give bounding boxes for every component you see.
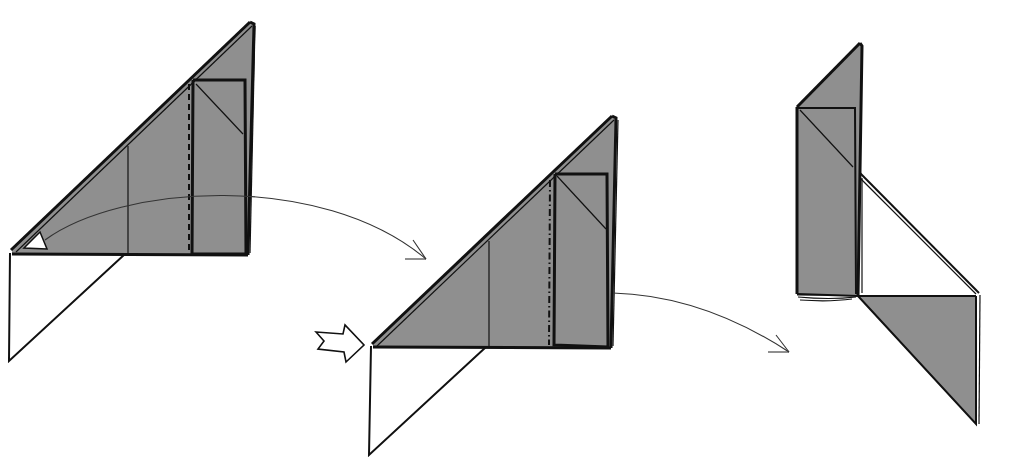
step-1-figure <box>9 22 255 361</box>
step-2-figure <box>369 116 618 455</box>
push-arrow-icon <box>316 325 364 362</box>
motion-arrow-2-to-3 <box>613 293 789 352</box>
step-3-figure <box>797 43 980 424</box>
step-3-column <box>797 44 862 296</box>
step-1-colored-triangle <box>12 22 253 255</box>
step-2-colored-triangle <box>373 117 615 348</box>
origami-diagram <box>0 0 1013 466</box>
